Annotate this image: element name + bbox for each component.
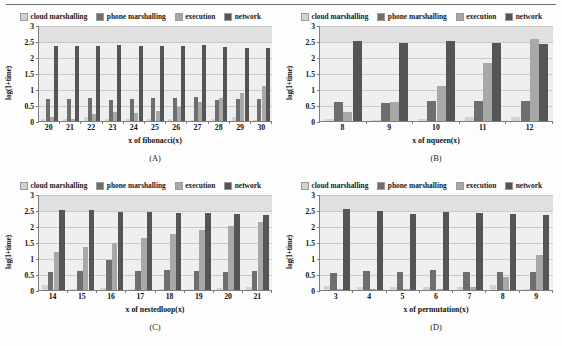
legend-swatch-icon bbox=[505, 182, 513, 190]
bar-phone-marshalling bbox=[67, 99, 71, 121]
y-tick-label: 1 bbox=[30, 255, 34, 264]
x-tick-label: 18 bbox=[155, 292, 184, 301]
legend-swatch-icon bbox=[301, 13, 309, 21]
legend-label: network bbox=[516, 181, 542, 190]
x-tick-label: 26 bbox=[166, 123, 187, 132]
bar-group bbox=[209, 26, 230, 121]
legend-item-network: network bbox=[224, 181, 261, 190]
bar-network bbox=[160, 46, 164, 121]
x-tick-label: 12 bbox=[506, 123, 553, 132]
plot-area-wrapper: log(1+time)00.511.522.532021222324252627… bbox=[0, 26, 281, 138]
bar-execution bbox=[370, 289, 376, 290]
y-tick-label: 0 bbox=[311, 118, 315, 127]
y-tick-label: 2 bbox=[30, 54, 34, 63]
bar-group bbox=[39, 26, 60, 121]
bar-network bbox=[353, 41, 362, 121]
bar-phone-marshalling bbox=[474, 101, 483, 121]
legend-item-network: network bbox=[224, 12, 261, 21]
bar-group bbox=[145, 26, 166, 121]
bar-execution bbox=[343, 112, 352, 121]
bar-cloud-marshalling bbox=[71, 289, 77, 290]
bar-execution bbox=[199, 230, 205, 290]
legend-label: execution bbox=[466, 181, 496, 190]
x-tick-label: 5 bbox=[386, 292, 419, 301]
bar-network bbox=[377, 211, 383, 290]
legend-item-cloud-marshalling: cloud marshalling bbox=[20, 181, 87, 190]
bar-cloud-marshalling bbox=[159, 289, 165, 290]
x-tick-label: 17 bbox=[126, 292, 155, 301]
legend-label: cloud marshalling bbox=[311, 12, 368, 21]
legend-label: phone marshalling bbox=[107, 181, 166, 190]
legend-swatch-icon bbox=[377, 13, 385, 21]
bar-execution bbox=[170, 234, 176, 290]
y-tick-label: 2 bbox=[311, 54, 315, 63]
bar-network bbox=[510, 214, 516, 290]
legend-label: phone marshalling bbox=[388, 12, 447, 21]
legend-swatch-icon bbox=[20, 182, 28, 190]
bar-group bbox=[320, 26, 367, 121]
bar-phone-marshalling bbox=[530, 272, 536, 290]
legend-label: cloud marshalling bbox=[30, 12, 87, 21]
y-axis-ticks: 00.511.522.53 bbox=[14, 195, 36, 291]
bar-phone-marshalling bbox=[363, 271, 369, 290]
bar-network bbox=[399, 43, 408, 121]
x-tick-label: 8 bbox=[319, 123, 366, 132]
bar-groups bbox=[39, 26, 272, 121]
legend-swatch-icon bbox=[456, 13, 464, 21]
bar-execution bbox=[390, 102, 399, 121]
y-tick-label: 0.5 bbox=[306, 102, 316, 111]
bar-cloud-marshalling bbox=[325, 119, 334, 121]
bar-group bbox=[486, 195, 519, 290]
legend-swatch-icon bbox=[96, 13, 104, 21]
x-tick-label: 23 bbox=[102, 123, 123, 132]
chart-legend: cloud marshallingphone marshallingexecut… bbox=[281, 12, 562, 21]
x-tick-label: 21 bbox=[243, 292, 272, 301]
bar-network bbox=[181, 46, 185, 121]
chart-legend: cloud marshallingphone marshallingexecut… bbox=[281, 181, 562, 190]
bar-network bbox=[147, 212, 153, 290]
bar-phone-marshalling bbox=[223, 272, 229, 290]
bar-group bbox=[251, 26, 272, 121]
legend-item-network: network bbox=[505, 181, 542, 190]
bar-group bbox=[320, 195, 353, 290]
panel-caption: (C) bbox=[38, 323, 272, 332]
bar-group bbox=[185, 195, 214, 290]
figure-page: cloud marshallingphone marshallingexecut… bbox=[0, 0, 562, 346]
y-tick-label: 2 bbox=[30, 223, 34, 232]
bar-cloud-marshalling bbox=[42, 285, 48, 290]
x-tick-label: 4 bbox=[352, 292, 385, 301]
bar-phone-marshalling bbox=[194, 271, 200, 290]
bar-phone-marshalling bbox=[48, 272, 54, 290]
bar-group bbox=[453, 195, 486, 290]
bar-phone-marshalling bbox=[521, 101, 530, 121]
bar-network bbox=[176, 213, 182, 290]
legend-label: network bbox=[516, 12, 542, 21]
bar-network bbox=[539, 44, 548, 121]
bar-cloud-marshalling bbox=[511, 117, 520, 121]
page-rule bbox=[6, 4, 556, 5]
plot-axes bbox=[319, 195, 553, 291]
y-tick-label: 3 bbox=[311, 191, 315, 200]
bar-network bbox=[234, 214, 240, 290]
bar-group bbox=[126, 195, 155, 290]
legend-item-cloud-marshalling: cloud marshalling bbox=[20, 12, 87, 21]
bar-cloud-marshalling bbox=[372, 120, 381, 121]
legend-swatch-icon bbox=[301, 182, 309, 190]
bar-group bbox=[367, 26, 414, 121]
y-tick-label: 2.5 bbox=[25, 207, 35, 216]
bar-network bbox=[263, 215, 269, 290]
x-tick-label: 24 bbox=[123, 123, 144, 132]
legend-label: network bbox=[235, 12, 261, 21]
bar-phone-marshalling bbox=[397, 272, 403, 290]
x-tick-label: 28 bbox=[208, 123, 229, 132]
legend-label: phone marshalling bbox=[388, 181, 447, 190]
bar-network bbox=[223, 47, 227, 121]
x-tick-label: 11 bbox=[459, 123, 506, 132]
y-tick-label: 2.5 bbox=[25, 38, 35, 47]
bar-phone-marshalling bbox=[334, 102, 343, 121]
bar-execution bbox=[437, 289, 443, 290]
bar-group bbox=[103, 26, 124, 121]
x-axis-ticks: 1415161718192021 bbox=[38, 292, 272, 301]
chart-panel-c: cloud marshallingphone marshallingexecut… bbox=[0, 177, 281, 346]
legend-swatch-icon bbox=[505, 13, 513, 21]
